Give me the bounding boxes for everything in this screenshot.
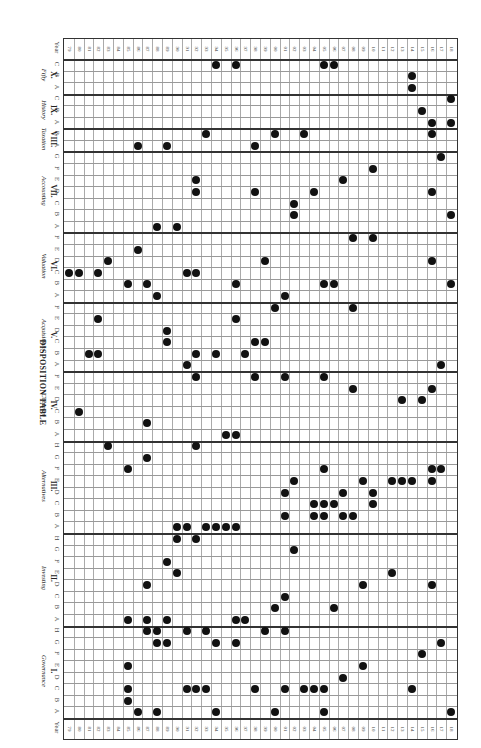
grid-column-line xyxy=(142,39,143,739)
row-letter: H xyxy=(53,625,61,635)
disposition-dot xyxy=(232,315,240,323)
grid-row-line xyxy=(64,105,457,106)
year-footer-cell: 11 xyxy=(380,724,386,734)
grid-row-line xyxy=(64,360,457,361)
disposition-dot xyxy=(290,200,298,208)
disposition-dot xyxy=(192,442,200,450)
grid-row-line xyxy=(64,290,457,291)
disposition-dot xyxy=(369,234,377,242)
disposition-dot xyxy=(222,523,230,531)
section-separator xyxy=(64,533,457,535)
grid-row-line xyxy=(64,256,457,257)
disposition-dot xyxy=(251,188,259,196)
grid-row-line xyxy=(64,672,457,673)
disposition-dot xyxy=(143,627,151,635)
grid-row-line xyxy=(64,267,457,268)
grid-row-line xyxy=(64,163,457,164)
disposition-dot xyxy=(320,500,328,508)
disposition-dot xyxy=(183,269,191,277)
disposition-dot xyxy=(359,662,367,670)
section-label: V.Acquisitions xyxy=(40,305,58,365)
disposition-dot xyxy=(310,512,318,520)
year-footer-cell: 97 xyxy=(242,724,248,734)
year-footer-cell: 83 xyxy=(105,724,111,734)
disposition-dot xyxy=(192,269,200,277)
disposition-dot xyxy=(447,211,455,219)
year-footer-cell: 89 xyxy=(164,724,170,734)
year-header-cell: 81 xyxy=(86,44,92,54)
disposition-dot xyxy=(143,581,151,589)
year-footer-cell: 03 xyxy=(301,724,307,734)
year-header-cell: 80 xyxy=(76,44,82,54)
year-footer-cell: 92 xyxy=(193,724,199,734)
disposition-dot xyxy=(143,419,151,427)
year-footer-cell: 82 xyxy=(95,724,101,734)
disposition-dot xyxy=(418,650,426,658)
section-number: V. xyxy=(49,305,58,365)
grid-column-line xyxy=(182,39,183,739)
section-separator xyxy=(64,232,457,234)
disposition-dot xyxy=(183,361,191,369)
disposition-dot xyxy=(271,708,279,716)
disposition-dot xyxy=(369,165,377,173)
disposition-dot xyxy=(202,685,210,693)
grid-row-line xyxy=(64,683,457,684)
grid-row-line xyxy=(64,591,457,592)
grid-column-line xyxy=(172,39,173,739)
year-header-cell: 13 xyxy=(399,44,405,54)
disposition-dot xyxy=(153,708,161,716)
section-number: IV. xyxy=(49,375,58,435)
year-header-cell: 09 xyxy=(360,44,366,54)
disposition-dot xyxy=(408,685,416,693)
disposition-dot xyxy=(232,616,240,624)
grid-row-line xyxy=(64,649,457,650)
grid-row-line xyxy=(64,510,457,511)
year-footer-cell: 08 xyxy=(350,724,356,734)
disposition-dot xyxy=(124,616,132,624)
disposition-dot xyxy=(104,257,112,265)
disposition-dot xyxy=(241,616,249,624)
disposition-dot xyxy=(310,685,318,693)
disposition-dot xyxy=(163,639,171,647)
disposition-dot xyxy=(428,130,436,138)
grid-row-line xyxy=(64,186,457,187)
year-footer-cell: 04 xyxy=(311,724,317,734)
disposition-dot xyxy=(349,304,357,312)
row-letter: A xyxy=(53,614,61,624)
year-footer-cell: 98 xyxy=(252,724,258,734)
disposition-dot xyxy=(281,593,289,601)
year-header-cell: 12 xyxy=(389,44,395,54)
grid-column-line xyxy=(368,39,369,739)
year-footer-cell: 93 xyxy=(203,724,209,734)
year-footer-cell: 88 xyxy=(154,724,160,734)
disposition-dot xyxy=(192,685,200,693)
disposition-dot xyxy=(300,685,308,693)
disposition-dot xyxy=(320,685,328,693)
section-name: Common xyxy=(40,375,49,435)
disposition-dot xyxy=(192,188,200,196)
disposition-dot xyxy=(173,223,181,231)
disposition-dot xyxy=(369,489,377,497)
year-footer-cell: 79 xyxy=(66,724,72,734)
disposition-dot xyxy=(212,61,220,69)
grid-column-line xyxy=(103,39,104,739)
year-header-cell: 94 xyxy=(213,44,219,54)
year-header-cell: 10 xyxy=(370,44,376,54)
grid-row-line xyxy=(64,71,457,72)
section-label: III.Alternatives xyxy=(40,456,58,516)
disposition-dot xyxy=(339,489,347,497)
section-name: Governance xyxy=(40,641,49,701)
grid-row-line xyxy=(64,498,457,499)
disposition-dot xyxy=(320,512,328,520)
disposition-dot xyxy=(134,142,142,150)
grid-row-line xyxy=(64,556,457,557)
year-footer-cell: 13 xyxy=(399,724,405,734)
section-label: IV.Common xyxy=(40,375,58,435)
disposition-dot xyxy=(212,708,220,716)
disposition-dot xyxy=(192,350,200,358)
grid-row-line xyxy=(64,313,457,314)
disposition-dot xyxy=(232,523,240,531)
disposition-grid: 7979808081818282838384848585868687878888… xyxy=(63,38,458,740)
disposition-dot xyxy=(447,95,455,103)
section-separator xyxy=(64,151,457,153)
